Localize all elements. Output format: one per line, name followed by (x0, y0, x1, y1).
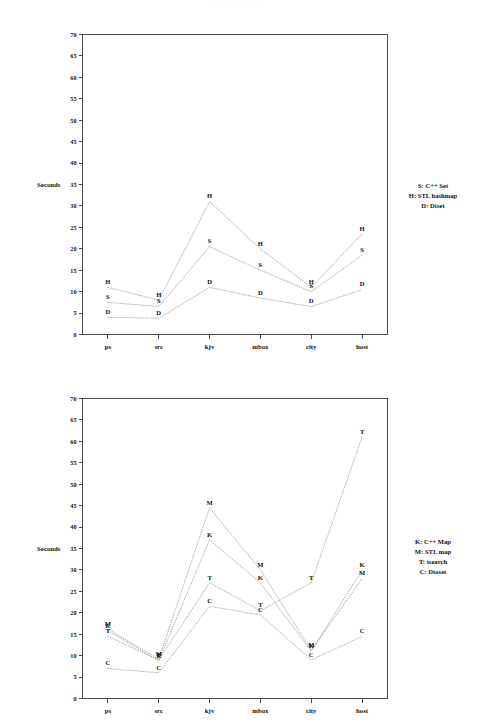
data-point-marker: S (208, 237, 212, 244)
data-point-marker: S (360, 246, 364, 253)
x-tick-label: host (356, 707, 369, 714)
series-line (108, 437, 362, 660)
data-point-marker: C (258, 606, 263, 613)
data-point-marker: D (258, 289, 263, 296)
plot-frame (83, 35, 388, 335)
series-line (108, 508, 362, 659)
y-tick-label: 5 (73, 673, 76, 680)
y-tick-label: 55 (70, 459, 76, 466)
legend-entry: M: STL map (415, 548, 452, 555)
data-point-marker: S (259, 261, 263, 268)
data-point-marker: D (309, 297, 314, 304)
y-tick-label: 20 (70, 245, 76, 252)
data-point-marker: M (359, 569, 366, 576)
legend-entry: D: Dtset (421, 202, 445, 209)
x-tick-label: ps (105, 343, 112, 350)
data-point-marker: K (258, 574, 264, 581)
data-point-marker: S (309, 282, 313, 289)
data-point-marker: T (360, 428, 365, 435)
chart-figure-map-benchmark: 0510152025303540455055606570Secondspssrc… (0, 364, 479, 728)
data-point-marker: T (309, 574, 314, 581)
chart-figure-set-benchmark: 0510152025303540455055606570Secondspssrc… (0, 0, 479, 364)
data-point-marker: D (106, 308, 111, 315)
y-tick-label: 25 (70, 588, 76, 595)
y-tick-label: 55 (70, 95, 76, 102)
x-tick-label: src (154, 707, 163, 714)
y-tick-label: 50 (70, 481, 76, 488)
series-line (108, 287, 362, 318)
y-tick-label: 20 (70, 609, 76, 616)
data-point-marker: D (156, 309, 161, 316)
legend-entry: H: STL hashmap (409, 192, 458, 199)
map-benchmark-plot: 0510152025303540455055606570Secondspssrc… (0, 364, 479, 728)
y-tick-label: 70 (70, 395, 76, 402)
y-tick-label: 15 (70, 267, 76, 274)
y-tick-label: 15 (70, 631, 76, 638)
data-point-marker: C (360, 627, 365, 634)
y-axis-title: Seconds (37, 181, 61, 188)
series-line (108, 540, 362, 661)
data-point-marker: K (360, 561, 366, 568)
data-point-marker: C (309, 651, 314, 658)
set-benchmark-plot: 0510152025303540455055606570Secondspssrc… (0, 0, 479, 364)
data-point-marker: S (106, 293, 110, 300)
y-tick-label: 30 (70, 202, 76, 209)
x-tick-label: mbox (252, 343, 269, 350)
y-axis-title: Seconds (37, 545, 61, 552)
x-tick-label: src (154, 343, 163, 350)
x-tick-label: city (306, 343, 317, 350)
y-tick-label: 30 (70, 566, 76, 573)
data-point-marker: H (258, 240, 264, 247)
y-tick-label: 10 (70, 288, 76, 295)
data-point-marker: H (105, 278, 111, 285)
y-tick-label: 35 (70, 545, 76, 552)
y-tick-label: 0 (73, 331, 76, 338)
x-tick-label: host (356, 343, 369, 350)
plot-frame (83, 399, 388, 699)
x-tick-label: city (306, 707, 317, 714)
data-point-marker: C (106, 659, 111, 666)
data-point-marker: H (207, 192, 213, 199)
x-tick-label: kjv (205, 343, 215, 350)
figure-page: ················· 0510152025303540455055… (0, 0, 479, 728)
y-tick-label: 50 (70, 117, 76, 124)
data-point-marker: T (157, 651, 162, 658)
data-point-marker: D (207, 278, 212, 285)
y-tick-label: 40 (70, 159, 76, 166)
legend-entry: S: C++ Set (418, 182, 449, 189)
x-tick-label: kjv (205, 707, 215, 714)
series-line (108, 606, 362, 672)
data-point-marker: M (206, 499, 213, 506)
y-tick-label: 40 (70, 523, 76, 530)
data-point-marker: C (156, 664, 161, 671)
data-point-marker: M (257, 561, 264, 568)
y-tick-label: 65 (70, 416, 76, 423)
series-line (108, 202, 362, 301)
legend-entry: K: C++ Map (415, 538, 451, 545)
data-point-marker: D (360, 280, 365, 287)
y-tick-label: 10 (70, 652, 76, 659)
y-tick-label: 60 (70, 74, 76, 81)
x-tick-label: mbox (252, 707, 269, 714)
y-tick-label: 60 (70, 438, 76, 445)
y-tick-label: 65 (70, 52, 76, 59)
y-tick-label: 70 (70, 31, 76, 38)
y-tick-label: 45 (70, 502, 76, 509)
data-point-marker: C (207, 597, 212, 604)
series-line (108, 247, 362, 307)
data-point-marker: K (309, 642, 315, 649)
y-tick-label: 5 (73, 309, 76, 316)
data-point-marker: T (207, 574, 212, 581)
y-tick-label: 0 (73, 695, 76, 702)
y-tick-label: 25 (70, 224, 76, 231)
data-point-marker: S (157, 297, 161, 304)
legend-entry: T: tsearch (419, 558, 447, 565)
data-point-marker: T (106, 627, 111, 634)
y-tick-label: 45 (70, 138, 76, 145)
data-point-marker: K (207, 531, 213, 538)
data-point-marker: H (360, 225, 366, 232)
x-tick-label: ps (105, 707, 112, 714)
y-tick-label: 35 (70, 181, 76, 188)
legend-entry: C: Dtoset (420, 568, 447, 575)
